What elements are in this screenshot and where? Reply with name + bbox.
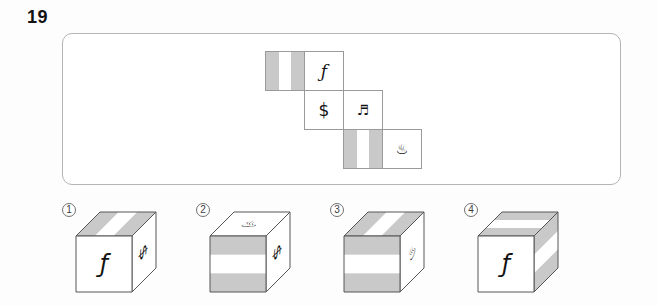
question-number: 19: [27, 7, 48, 28]
answer-options-row: 1$ƒ2♨$3♨4ƒ: [0, 196, 658, 306]
option-cube: ♨$: [208, 204, 294, 296]
net-symbol-hot-springs: ♨: [396, 142, 409, 156]
net-symbol-dollar: $: [319, 102, 330, 119]
net-face-florin: ƒ: [304, 51, 344, 91]
stripe-band: [210, 273, 266, 292]
stripe-band: [344, 236, 400, 255]
option-cube: ♨: [342, 204, 428, 296]
net-face-stripes-vertical: [265, 51, 305, 91]
net-symbol-beamed-notes: ♬: [357, 103, 370, 117]
option-cube: ƒ: [476, 204, 562, 296]
cube-net: ƒ$♬♨: [265, 51, 424, 171]
stripe-band: [344, 273, 400, 292]
stripe-band: [494, 212, 558, 220]
stripe-band: [478, 228, 542, 236]
option-cube: $ƒ: [74, 204, 160, 296]
net-face-hot-springs: ♨: [382, 129, 422, 169]
net-face-stripes-vertical: [343, 129, 383, 169]
net-face-dollar: $: [304, 90, 344, 130]
net-face-beamed-notes: ♬: [343, 90, 383, 130]
question-frame: ƒ$♬♨: [62, 33, 621, 185]
stripe-band: [210, 236, 266, 255]
worksheet-page: 19 ƒ$♬♨ 1$ƒ2♨$3♨4ƒ: [0, 0, 658, 306]
answer-option-4[interactable]: 4ƒ: [458, 196, 626, 304]
net-symbol-florin: ƒ: [321, 63, 327, 80]
